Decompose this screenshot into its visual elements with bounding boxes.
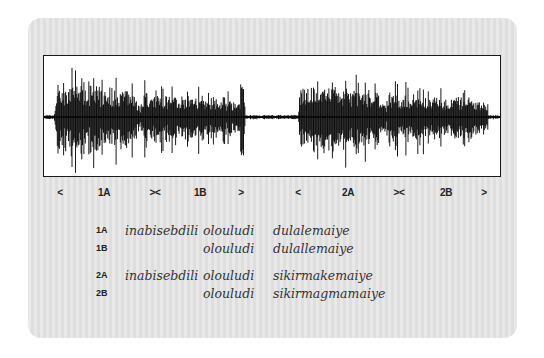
audio-waveform <box>44 56 501 177</box>
segment-marker: 1A <box>98 187 110 198</box>
row-label: 1A <box>96 225 108 235</box>
transcription-word: olouludi <box>203 268 254 283</box>
transcription-word: sikirmakemaiye <box>273 268 373 283</box>
row-label: 2B <box>96 288 108 298</box>
segment-marker: >< <box>149 187 160 198</box>
segment-marker: > <box>238 187 244 198</box>
segment-marker: 2A <box>342 187 354 198</box>
row-label: 2A <box>96 270 108 280</box>
segment-marker: > <box>481 187 487 198</box>
segment-marker: < <box>295 187 301 198</box>
transcription-word: olouludi <box>203 286 254 301</box>
segment-marker: >< <box>393 187 404 198</box>
row-label: 1B <box>96 243 108 253</box>
transcription-word: olouludi <box>203 223 254 238</box>
segment-marker: 1B <box>194 187 206 198</box>
transcription-word: sikirmagmamaiye <box>273 286 385 301</box>
transcription-word: dulalemaiye <box>273 223 350 238</box>
transcription-word: inabisebdili <box>125 223 198 238</box>
waveform-frame <box>43 55 501 177</box>
segment-marker: 2B <box>440 187 452 198</box>
transcription-word: dulallemaiye <box>273 241 354 256</box>
transcription-word: olouludi <box>203 241 254 256</box>
segment-marker: < <box>57 187 63 198</box>
transcription-word: inabisebdili <box>125 268 198 283</box>
